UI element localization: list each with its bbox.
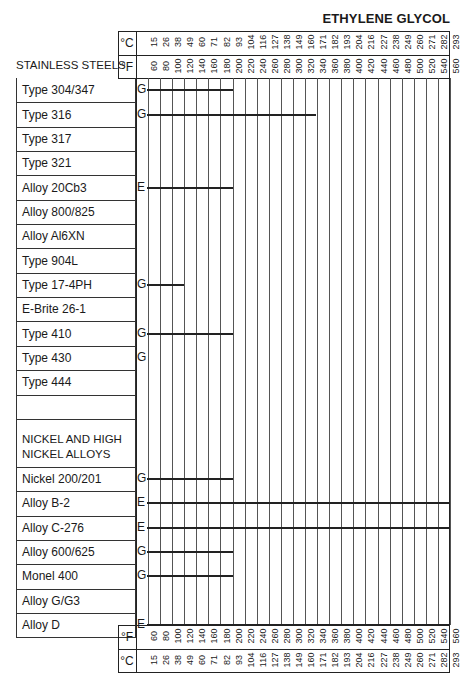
grid-line bbox=[402, 78, 403, 625]
fahrenheit-tick: 280 bbox=[282, 625, 292, 647]
grid-line bbox=[329, 78, 330, 625]
fahrenheit-tick: 180 bbox=[222, 55, 232, 77]
fahrenheit-tick: 220 bbox=[246, 55, 256, 77]
grid-line bbox=[390, 78, 391, 625]
fahrenheit-tick: 220 bbox=[246, 625, 256, 647]
row-label: Type 444 bbox=[16, 370, 136, 395]
celsius-tick: 216 bbox=[366, 649, 376, 671]
row-label: Type 304/347 bbox=[16, 78, 136, 103]
fahrenheit-tick: 200 bbox=[234, 55, 244, 77]
celsius-tick: 238 bbox=[391, 649, 401, 671]
row-label: NICKEL AND HIGH NICKEL ALLOYS bbox=[16, 419, 136, 468]
fahrenheit-tick: 140 bbox=[197, 625, 207, 647]
celsius-tick: 116 bbox=[258, 31, 268, 53]
fahrenheit-tick: 440 bbox=[379, 625, 389, 647]
celsius-tick: 260 bbox=[415, 31, 425, 53]
service-range-bar bbox=[147, 187, 233, 189]
rating-g: G bbox=[137, 471, 146, 485]
fahrenheit-tick: 540 bbox=[439, 625, 449, 647]
row-label: E-Brite 26-1 bbox=[16, 297, 136, 322]
rating-g: G bbox=[137, 277, 146, 291]
celsius-tick: 15 bbox=[149, 649, 159, 671]
celsius-tick: 60 bbox=[197, 649, 207, 671]
grid-line bbox=[233, 78, 234, 625]
grid-line bbox=[196, 78, 197, 625]
grid-line bbox=[414, 78, 415, 625]
grid-line bbox=[220, 78, 221, 625]
row-label: Type 17-4PH bbox=[16, 273, 136, 298]
fahrenheit-tick: 240 bbox=[258, 625, 268, 647]
celsius-tick: 171 bbox=[318, 649, 328, 671]
celsius-tick: 38 bbox=[173, 31, 183, 53]
fahrenheit-tick: 460 bbox=[391, 55, 401, 77]
fahrenheit-tick: 260 bbox=[270, 55, 280, 77]
fahrenheit-tick: 60 bbox=[149, 55, 159, 77]
celsius-tick: 216 bbox=[366, 31, 376, 53]
grid-line bbox=[208, 78, 209, 625]
rating-g: G bbox=[137, 350, 146, 364]
fahrenheit-tick: 320 bbox=[306, 55, 316, 77]
fahrenheit-tick: 480 bbox=[403, 55, 413, 77]
celsius-tick: 227 bbox=[379, 649, 389, 671]
celsius-tick: 293 bbox=[451, 649, 461, 671]
grid-line bbox=[184, 78, 185, 625]
celsius-tick: 160 bbox=[306, 649, 316, 671]
service-range-bar bbox=[147, 114, 316, 116]
service-range-bar bbox=[147, 551, 233, 553]
fahrenheit-tick: 380 bbox=[342, 55, 352, 77]
fahrenheit-tick: 200 bbox=[234, 625, 244, 647]
grid-line bbox=[317, 78, 318, 625]
fahrenheit-tick: 80 bbox=[161, 625, 171, 647]
service-range-bar bbox=[147, 527, 450, 529]
row-label: Type 410 bbox=[16, 322, 136, 347]
fahrenheit-tick: 520 bbox=[427, 55, 437, 77]
row-label: Alloy 20Cb3 bbox=[16, 175, 136, 200]
row-label: Alloy C-276 bbox=[16, 516, 136, 541]
fahrenheit-tick: 560 bbox=[451, 625, 461, 647]
fahrenheit-tick: 560 bbox=[451, 55, 461, 77]
fahrenheit-tick: 280 bbox=[282, 55, 292, 77]
celsius-tick: 182 bbox=[330, 31, 340, 53]
row-label: Alloy Al6XN bbox=[16, 224, 136, 249]
celsius-tick: 227 bbox=[379, 31, 389, 53]
celsius-tick: 127 bbox=[270, 31, 280, 53]
fahrenheit-tick: 420 bbox=[366, 55, 376, 77]
celsius-tick: 249 bbox=[403, 31, 413, 53]
fahrenheit-tick: 440 bbox=[379, 55, 389, 77]
celsius-tick: 127 bbox=[270, 649, 280, 671]
fahrenheit-tick: 260 bbox=[270, 625, 280, 647]
grid-line bbox=[305, 78, 306, 625]
service-range-bar bbox=[147, 333, 233, 335]
grid-line bbox=[365, 78, 366, 625]
fahrenheit-tick: 400 bbox=[354, 55, 364, 77]
grid-line bbox=[378, 78, 379, 625]
fahrenheit-tick: 380 bbox=[342, 625, 352, 647]
top-fahrenheit-label: °F bbox=[118, 60, 136, 74]
celsius-tick: 171 bbox=[318, 31, 328, 53]
service-range-bar bbox=[147, 502, 450, 504]
service-range-bar bbox=[147, 478, 233, 480]
rating-g: G bbox=[137, 326, 146, 340]
celsius-tick: 104 bbox=[246, 649, 256, 671]
row-label: Alloy 600/625 bbox=[16, 540, 136, 565]
fahrenheit-tick: 120 bbox=[185, 625, 195, 647]
grid-line bbox=[438, 78, 439, 625]
celsius-tick: 60 bbox=[197, 31, 207, 53]
rating-e: E bbox=[137, 495, 145, 509]
grid-line bbox=[148, 78, 149, 625]
celsius-tick: 160 bbox=[306, 31, 316, 53]
grid-line bbox=[450, 78, 451, 625]
celsius-tick: 293 bbox=[451, 31, 461, 53]
celsius-tick: 82 bbox=[222, 649, 232, 671]
celsius-tick: 138 bbox=[282, 649, 292, 671]
fahrenheit-tick: 160 bbox=[209, 625, 219, 647]
bottom-unit-col-sep bbox=[136, 625, 137, 673]
fahrenheit-tick: 500 bbox=[415, 55, 425, 77]
fahrenheit-tick: 100 bbox=[173, 55, 183, 77]
rating-g: G bbox=[137, 568, 146, 582]
fahrenheit-tick: 360 bbox=[330, 625, 340, 647]
celsius-tick: 116 bbox=[258, 649, 268, 671]
grid-line bbox=[172, 78, 173, 625]
celsius-tick: 71 bbox=[209, 649, 219, 671]
fahrenheit-tick: 420 bbox=[366, 625, 376, 647]
